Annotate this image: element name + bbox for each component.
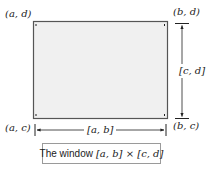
vertical-dimension-label: [c, d] [179,65,205,77]
window-rectangle [34,22,168,119]
corner-dot-bottom-right [164,114,165,116]
corner-dot-top-left [36,24,37,26]
caption-box: The window [a, b] × [c, d] [42,143,161,164]
corner-label-top-left: (a, d) [5,8,32,20]
caption-prefix: The window [40,148,93,159]
corner-dot-bottom-left [36,114,37,116]
corner-label-bottom-right: (b, c) [173,120,199,132]
corner-label-bottom-left: (a, c) [5,122,31,134]
corner-label-top-right: (b, d) [173,6,200,18]
caption-math: [a, b] × [c, d] [96,148,163,159]
corner-dot-top-right [164,24,165,26]
horizontal-dimension-label: [a, b] [87,124,114,136]
